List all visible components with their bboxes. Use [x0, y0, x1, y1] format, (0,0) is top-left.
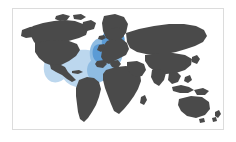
world-map-figure — [0, 0, 236, 142]
world-map-svg — [13, 9, 223, 129]
map-frame-border — [12, 8, 224, 130]
